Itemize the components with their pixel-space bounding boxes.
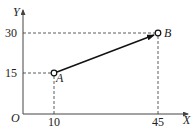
vector-ab [57, 35, 154, 72]
x-axis-label: X [182, 113, 191, 127]
x-tick-45: 45 [152, 115, 164, 129]
point-b-label: B [164, 26, 172, 40]
point-a-label: A [55, 71, 64, 85]
y-tick-30: 30 [5, 26, 17, 40]
origin-label: O [11, 111, 20, 125]
y-tick-15: 15 [5, 66, 17, 80]
y-axis-label: Y [13, 5, 21, 19]
x-tick-10: 10 [48, 115, 60, 129]
vector-diagram: Y X O 30 15 10 45 A B [0, 0, 194, 139]
point-b [155, 30, 161, 36]
